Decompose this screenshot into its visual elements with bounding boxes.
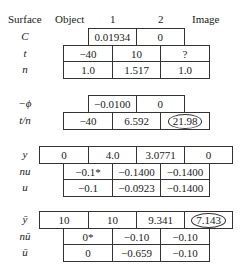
cell: −0.0100 bbox=[89, 96, 137, 112]
curvature-row: 0.01934 0 bbox=[88, 28, 185, 46]
cell: 3.0771 bbox=[137, 147, 185, 163]
label-nubar: nū bbox=[0, 230, 50, 242]
label-neg-phi: −ϕ bbox=[0, 97, 50, 109]
cell: −0.0923 bbox=[113, 180, 161, 196]
marginal-ray-angle-table: −0.1* −0.1400 −0.1400 −0.1 −0.0923 −0.14… bbox=[63, 163, 210, 197]
circled-answer: 21.98 bbox=[168, 114, 203, 129]
index-row: 1.0 1.517 1.0 bbox=[64, 62, 209, 78]
header-object: Object bbox=[55, 13, 84, 25]
cell: 0 bbox=[40, 147, 89, 163]
cell: 0.01934 bbox=[89, 29, 137, 45]
cell: −0.1 bbox=[64, 180, 113, 196]
ubar-row: 0 −0.659 −0.10 bbox=[64, 245, 209, 261]
cell: −0.659 bbox=[113, 245, 161, 261]
header-surface: Surface bbox=[8, 13, 42, 25]
cell: ? bbox=[161, 46, 209, 61]
cell: −40 bbox=[64, 113, 113, 129]
thickness-row: −40 10 ? bbox=[64, 46, 209, 62]
cell: 21.98 bbox=[161, 113, 209, 129]
cell: −0.10 bbox=[161, 229, 209, 244]
nu-row: −0.1* −0.1400 −0.1400 bbox=[64, 164, 209, 180]
cell: 0 bbox=[64, 245, 113, 261]
label-C: C bbox=[0, 30, 50, 42]
cell: 1.0 bbox=[64, 62, 113, 78]
chief-ray-angle-table: 0* −0.10 −0.10 0 −0.659 −0.10 bbox=[63, 228, 210, 262]
chief-ray-height-row: 10 10 9.341 7.143 bbox=[39, 211, 233, 229]
cell: 0 bbox=[185, 147, 232, 163]
label-ubar: ū bbox=[0, 246, 50, 258]
header-image: Image bbox=[192, 13, 219, 25]
label-t: t bbox=[0, 47, 50, 59]
cell: 0 bbox=[137, 96, 185, 112]
reduced-thickness-row: −40 6.592 21.98 bbox=[63, 112, 210, 130]
cell: 6.592 bbox=[113, 113, 161, 129]
cell: 1.0 bbox=[161, 62, 209, 78]
label-nu: nu bbox=[0, 165, 50, 177]
cell: −0.1400 bbox=[113, 164, 161, 179]
circled-answer: 7.143 bbox=[191, 213, 226, 228]
header-surface-2: 2 bbox=[158, 13, 164, 25]
cell: 10 bbox=[40, 212, 89, 228]
cell: −0.1400 bbox=[161, 180, 209, 196]
cell: 4.0 bbox=[89, 147, 137, 163]
cell: −40 bbox=[64, 46, 113, 61]
label-n: n bbox=[0, 63, 50, 75]
u-row: −0.1 −0.0923 −0.1400 bbox=[64, 180, 209, 196]
cell: −0.10 bbox=[161, 245, 209, 261]
power-row: −0.0100 0 bbox=[88, 95, 185, 113]
cell: 0 bbox=[137, 29, 185, 45]
cell: −0.10 bbox=[113, 229, 161, 244]
label-u: u bbox=[0, 181, 50, 193]
cell: 1.517 bbox=[113, 62, 161, 78]
cell: 0* bbox=[64, 229, 113, 244]
label-t-over-n: t/n bbox=[0, 114, 50, 126]
cell: 10 bbox=[113, 46, 161, 61]
cell: 10 bbox=[89, 212, 137, 228]
cell: −0.1* bbox=[64, 164, 113, 179]
cell: 7.143 bbox=[185, 212, 232, 228]
marginal-ray-height-row: 0 4.0 3.0771 0 bbox=[39, 146, 233, 164]
cell: 9.341 bbox=[137, 212, 185, 228]
cell: −0.1400 bbox=[161, 164, 209, 179]
thickness-index-table: −40 10 ? 1.0 1.517 1.0 bbox=[63, 45, 210, 79]
nubar-row: 0* −0.10 −0.10 bbox=[64, 229, 209, 245]
header-surface-1: 1 bbox=[110, 13, 116, 25]
